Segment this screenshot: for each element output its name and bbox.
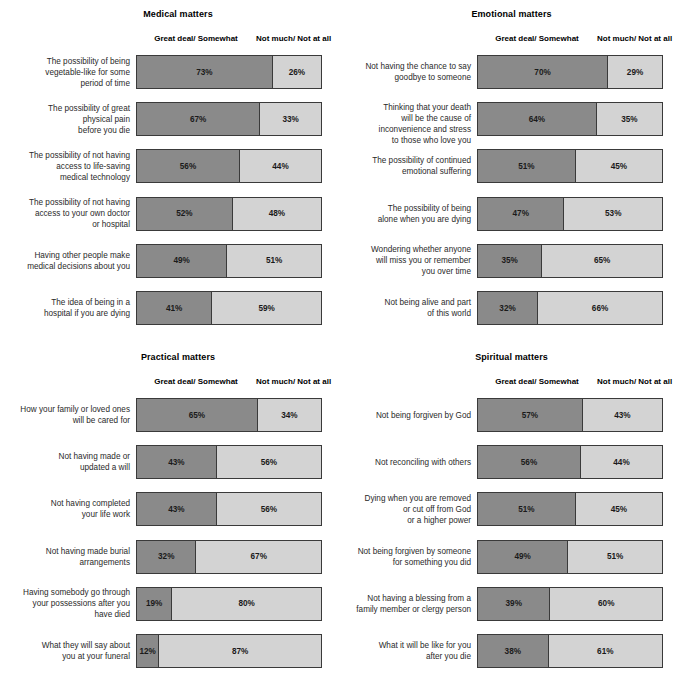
stacked-bar: 41%59% [136,291,322,325]
bar-segment-great-deal: 41% [137,292,212,324]
bar-segment-great-deal: 51% [478,150,576,182]
bar-row: Not having a blessing from a family memb… [341,587,682,621]
stacked-bar: 43%56% [136,492,322,526]
bar-row-label: The possibility of continued emotional s… [343,155,471,177]
bar-segment-not-much: 34% [258,399,321,431]
stacked-bar: 49%51% [477,540,663,574]
bar-segment-not-much: 51% [227,245,321,277]
bar-row: Not being forgiven by someone for someth… [341,540,682,574]
bar-row-label: The possibility of being alone when you … [343,203,471,225]
bar-segment-great-deal: 57% [478,399,583,431]
bar-row-label: Dying when you are removed or cut off fr… [343,493,471,526]
stacked-bar: 65%34% [136,398,322,432]
stacked-bar: 56%44% [136,149,322,183]
bar-segment-not-much: 33% [260,103,321,135]
bar-row: The possibility of not having access to … [0,149,341,183]
bar-segment-not-much: 56% [217,493,321,525]
stacked-bar: 51%45% [477,149,663,183]
bar-row-label: The possibility of being vegetable-like … [2,56,130,89]
bar-segment-great-deal: 56% [478,446,581,478]
bar-row: Wondering whether anyone will miss you o… [341,244,682,278]
bar-row-label: Not being alive and part of this world [343,297,471,319]
bar-row-label: Not having completed your life work [2,498,130,520]
bar-row: Having somebody go through your possessi… [0,587,341,621]
bar-segment-not-much: 44% [240,150,321,182]
stacked-bar: 67%33% [136,102,322,136]
bar-row: The possibility of not having access to … [0,197,341,231]
bar-segment-not-much: 80% [172,588,321,620]
bar-segment-great-deal: 19% [137,588,172,620]
stacked-bar: 73%26% [136,55,322,89]
panel-practical-matters: Practical matters Great deal/ Somewhat N… [0,343,341,686]
bar-row-label: What they will say about you at your fun… [2,640,130,662]
bar-row: Thinking that your death will be the cau… [341,102,682,136]
stacked-bar: 56%44% [477,445,663,479]
bar-row-label: The possibility of not having access to … [2,197,130,230]
stacked-bar: 57%43% [477,398,663,432]
bar-row: How your family or loved ones will be ca… [0,398,341,432]
bar-row: The possibility of being vegetable-like … [0,55,341,89]
bar-segment-great-deal: 51% [478,493,576,525]
bar-segment-great-deal: 32% [137,541,196,573]
bar-row-label: Not having made burial arrangements [2,546,130,568]
stacked-bar: 32%67% [136,540,322,574]
bar-row: What it will be like for you after you d… [341,634,682,668]
bar-row: Having other people make medical decisio… [0,244,341,278]
stacked-bar: 47%53% [477,197,663,231]
bar-segment-not-much: 29% [608,56,662,88]
bar-row-label: Having somebody go through your possessi… [2,587,130,620]
bar-segment-not-much: 44% [581,446,662,478]
figure-canvas: Medical matters Great deal/ Somewhat Not… [0,0,682,686]
stacked-bar: 32%66% [477,291,663,325]
stacked-bar: 70%29% [477,55,663,89]
bar-row: Not being forgiven by God57%43% [341,398,682,432]
stacked-bar: 43%56% [136,445,322,479]
bar-segment-not-much: 65% [542,245,662,277]
bar-segment-great-deal: 56% [137,150,240,182]
bar-row-label: The possibility of not having access to … [2,150,130,183]
bar-segment-not-much: 26% [273,56,321,88]
bar-segment-great-deal: 73% [137,56,273,88]
bar-segment-great-deal: 70% [478,56,608,88]
bar-segment-not-much: 51% [568,541,662,573]
bar-segment-not-much: 53% [564,198,662,230]
bar-segment-not-much: 60% [550,588,662,620]
bar-row: The possibility of continued emotional s… [341,149,682,183]
panel-spiritual-matters: Spiritual matters Great deal/ Somewhat N… [341,343,682,686]
bar-row-label: How your family or loved ones will be ca… [2,404,130,426]
bar-segment-not-much: 43% [583,399,662,431]
bar-row: The possibility of being alone when you … [341,197,682,231]
stacked-bar: 51%45% [477,492,663,526]
bar-segment-not-much: 67% [196,541,321,573]
stacked-bar: 49%51% [136,244,322,278]
panel-rows: Not having the chance to say goodbye to … [341,0,682,343]
bar-segment-great-deal: 39% [478,588,550,620]
stacked-bar: 39%60% [477,587,663,621]
panel-emotional-matters: Emotional matters Great deal/ Somewhat N… [341,0,682,343]
bar-segment-not-much: 35% [597,103,662,135]
bar-row: The idea of being in a hospital if you a… [0,291,341,325]
bar-row-label: Not having made or updated a will [2,451,130,473]
bar-segment-great-deal: 32% [478,292,538,324]
bar-row-label: Not being forgiven by God [343,410,471,421]
bar-row-label: Having other people make medical decisio… [2,250,130,272]
bar-segment-great-deal: 43% [137,493,217,525]
bar-row: What they will say about you at your fun… [0,634,341,668]
bar-segment-great-deal: 67% [137,103,260,135]
bar-row-label: What it will be like for you after you d… [343,640,471,662]
bar-segment-not-much: 61% [549,635,662,667]
bar-row: Not reconciling with others56%44% [341,445,682,479]
bar-row-label: The possibility of great physical pain b… [2,103,130,136]
stacked-bar: 19%80% [136,587,322,621]
bar-row-label: Not having a blessing from a family memb… [343,593,471,615]
bar-segment-great-deal: 35% [478,245,542,277]
bar-segment-great-deal: 64% [478,103,597,135]
bar-segment-great-deal: 49% [478,541,568,573]
bar-segment-not-much: 66% [538,292,662,324]
bar-segment-great-deal: 38% [478,635,549,667]
panel-rows: Not being forgiven by God57%43%Not recon… [341,343,682,686]
stacked-bar: 12%87% [136,634,322,668]
bar-row: Dying when you are removed or cut off fr… [341,492,682,526]
bar-row: Not having the chance to say goodbye to … [341,55,682,89]
bar-row: Not having made burial arrangements32%67… [0,540,341,574]
